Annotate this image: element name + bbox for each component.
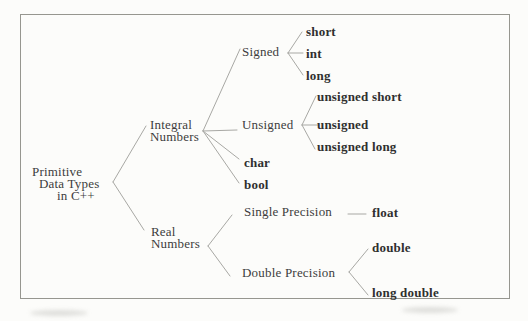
leaf-unsigned-long: unsigned long <box>317 140 397 153</box>
leaf-double: double <box>372 241 411 254</box>
node-double-precision: Double Precision <box>242 266 335 279</box>
leaf-bool: bool <box>244 178 269 191</box>
node-single-precision: Single Precision <box>244 205 332 218</box>
leaf-unsigned-short: unsigned short <box>317 90 402 103</box>
leaf-unsigned: unsigned <box>317 118 368 131</box>
node-primitive-data-types: Primitive Data Types in C++ <box>32 166 99 202</box>
leaf-short: short <box>306 25 336 38</box>
scan-smudge-right <box>402 307 458 313</box>
node-integral-numbers: Integral Numbers <box>150 119 199 143</box>
diagram-canvas: Primitive Data Types in C++ Integral Num… <box>0 0 528 321</box>
leaf-long-double: long double <box>372 286 439 299</box>
node-unsigned: Unsigned <box>242 118 293 131</box>
scan-smudge-left <box>30 310 88 316</box>
leaf-char: char <box>244 156 270 169</box>
leaf-long: long <box>306 69 331 82</box>
node-primitive-line3: in C++ <box>57 190 99 202</box>
node-signed: Signed <box>242 45 279 58</box>
leaf-float: float <box>372 206 398 219</box>
leaf-int: int <box>306 47 322 60</box>
node-real-numbers: Real Numbers <box>151 226 200 250</box>
